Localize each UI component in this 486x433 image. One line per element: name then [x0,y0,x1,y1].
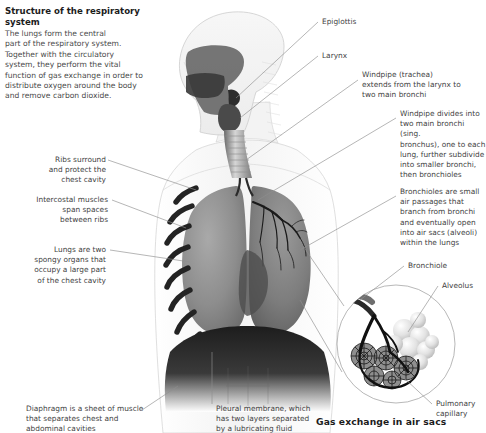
larynx-structure [218,104,241,132]
label-pleural: Pleural membrane, which has two layers s… [216,404,326,433]
respiratory-system-figure: Structure of the respiratory system The … [0,0,486,433]
intro-paragraph: The lungs form the central part of the r… [5,29,165,102]
label-epiglottis: Epiglottis [322,17,402,27]
label-windpipe: Windpipe (trachea) extends from the lary… [362,70,484,101]
label-larynx: Larynx [322,51,402,61]
label-bronchioles: Bronchioles are small air passages that … [400,187,486,248]
page-title: Structure of the respiratory system [5,6,155,28]
diaphragm [165,326,331,412]
label-ribs: Ribs surround and protect the chest cavi… [10,155,106,186]
alveoli-inset [337,285,455,403]
label-bronchi: Windpipe divides into two main bronchi (… [400,109,486,180]
label-lungs: Lungs are two spongy organs that occupy … [12,245,106,286]
label-intercostal: Intercostal muscles span spaces between … [6,195,108,226]
figure-caption: Gas exchange in air sacs [316,416,446,427]
label-alveolus: Alveolus [442,281,486,291]
label-bronchiole: Bronchiole [408,261,478,271]
label-diaphragm: Diaphragm is a sheet of muscle that sepa… [26,404,156,433]
